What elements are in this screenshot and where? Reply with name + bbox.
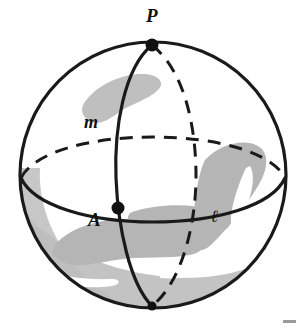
sphere-figure: P m A ℓ — [0, 0, 298, 329]
corner-scan-mark — [283, 320, 296, 323]
sphere-diagram-svg: P m A ℓ — [0, 0, 298, 329]
label-P: P — [145, 5, 158, 26]
point-south-pole-dot — [148, 302, 157, 311]
label-l: ℓ — [211, 207, 218, 226]
label-A: A — [87, 209, 101, 230]
point-A-dot — [112, 202, 125, 215]
label-m: m — [84, 112, 98, 132]
point-P-dot — [146, 39, 159, 52]
